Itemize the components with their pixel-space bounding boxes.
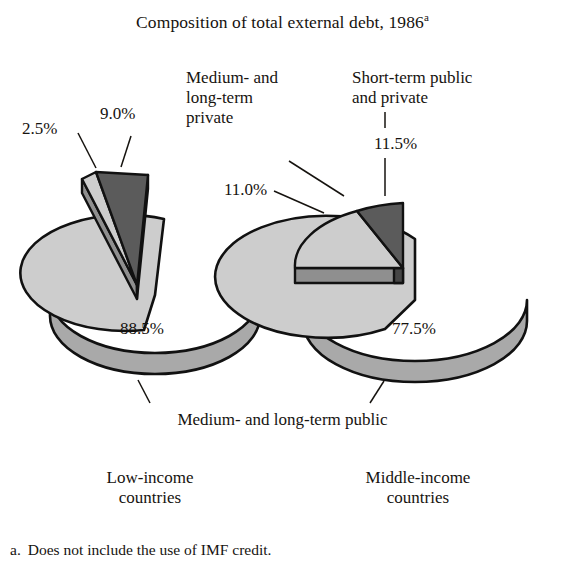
callout-short-term-public-and-private: Short-term public and private bbox=[352, 68, 472, 108]
value-label-left-short-term: 9.0% bbox=[100, 104, 135, 124]
group-label-low-income-line2: countries bbox=[40, 488, 260, 508]
footnote-mark: a. bbox=[10, 541, 21, 558]
group-label-low-income-countries: Low-income countries bbox=[40, 468, 260, 509]
callout-mlt-private-line2: long-term bbox=[186, 88, 278, 108]
leader-left-short bbox=[121, 136, 131, 167]
value-label-left-medium-long-private: 2.5% bbox=[22, 119, 57, 139]
callout-medium-long-term-public: Medium- and long-term public bbox=[0, 410, 565, 430]
leader-right-private-upper bbox=[289, 161, 344, 196]
leader-right-public bbox=[370, 381, 384, 403]
callout-mlt-private-line1: Medium- and bbox=[186, 68, 278, 88]
callout-short-term-line2: and private bbox=[352, 88, 472, 108]
value-label-left-medium-long-public: 88.5% bbox=[120, 319, 164, 339]
callout-short-term-line1: Short-term public bbox=[352, 68, 472, 88]
value-label-right-medium-long-private: 11.0% bbox=[224, 180, 267, 200]
callout-mlt-private-line3: private bbox=[186, 108, 278, 128]
pie-chart-middle-income bbox=[215, 112, 527, 403]
figure-composition-of-external-debt: Composition of total external debt, 1986… bbox=[0, 0, 565, 575]
footnote-text: Does not include the use of IMF credit. bbox=[28, 541, 272, 558]
group-label-low-income-line1: Low-income bbox=[40, 468, 260, 488]
group-label-middle-income-line2: countries bbox=[308, 488, 528, 508]
leader-right-private bbox=[274, 191, 324, 213]
value-label-right-short-term: 11.5% bbox=[374, 134, 417, 154]
group-label-middle-income-countries: Middle-income countries bbox=[308, 468, 528, 509]
callout-medium-long-term-private: Medium- and long-term private bbox=[186, 68, 278, 128]
value-label-right-medium-long-public: 77.5% bbox=[392, 319, 436, 339]
leader-left-private bbox=[78, 133, 96, 168]
group-label-middle-income-line1: Middle-income bbox=[308, 468, 528, 488]
footnote: a.Does not include the use of IMF credit… bbox=[10, 541, 271, 559]
leader-left-public bbox=[138, 380, 150, 403]
